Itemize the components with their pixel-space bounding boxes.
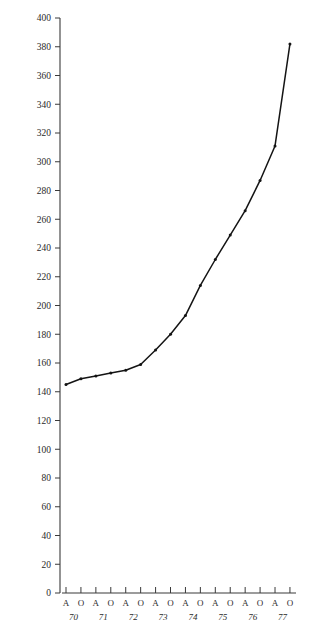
y-axis-tick-label: 80: [42, 473, 52, 483]
y-axis-tick-label: 280: [37, 186, 52, 196]
x-axis-tick-label: O: [108, 598, 115, 608]
x-axis-tick-label: A: [122, 598, 129, 608]
data-point: [274, 144, 277, 147]
y-axis-tick-label: 380: [37, 42, 52, 52]
y-axis-tick-label: 300: [37, 157, 52, 167]
x-axis-tick-label: A: [182, 598, 189, 608]
y-axis: 0204060801001201401601802002202402602803…: [37, 13, 60, 598]
data-point: [79, 377, 82, 380]
data-point: [109, 372, 112, 375]
data-series: [65, 42, 292, 386]
series-line: [66, 44, 290, 385]
data-point: [229, 234, 232, 237]
x-axis-tick-label: A: [63, 598, 70, 608]
x-axis-tick-label: A: [242, 598, 249, 608]
x-axis-year-label: 73: [159, 612, 169, 622]
x-axis-tick-label: A: [152, 598, 159, 608]
line-chart: 0204060801001201401601802002202402602803…: [0, 0, 324, 640]
x-axis-tick-label: A: [272, 598, 279, 608]
y-axis-tick-label: 120: [37, 416, 52, 426]
chart-canvas: 0204060801001201401601802002202402602803…: [0, 0, 324, 640]
x-axis-tick-label: O: [78, 598, 85, 608]
y-axis-tick-label: 260: [37, 215, 52, 225]
y-axis-tick-label: 360: [37, 71, 52, 81]
y-axis-tick-label: 140: [37, 387, 52, 397]
y-axis-tick-label: 320: [37, 128, 52, 138]
y-axis-tick-label: 160: [37, 358, 52, 368]
x-axis-year-label: 70: [69, 612, 79, 622]
x-axis-year-label: 72: [129, 612, 139, 622]
x-axis-tick-label: A: [93, 598, 100, 608]
y-axis-tick-label: 0: [46, 588, 51, 598]
y-axis-tick-label: 180: [37, 330, 52, 340]
data-point: [124, 369, 127, 372]
data-point: [244, 209, 247, 212]
data-point: [288, 42, 291, 45]
data-point: [214, 258, 217, 261]
data-point: [94, 374, 97, 377]
y-axis-tick-label: 100: [37, 445, 52, 455]
y-axis-tick-label: 200: [37, 301, 52, 311]
x-axis-tick-label: O: [197, 598, 204, 608]
y-axis-tick-label: 40: [42, 531, 52, 541]
data-point: [169, 333, 172, 336]
x-axis-year-label: 75: [218, 612, 228, 622]
data-point: [259, 179, 262, 182]
x-axis-year-label: 71: [99, 612, 108, 622]
x-axis-tick-label: A: [212, 598, 219, 608]
data-point: [154, 349, 157, 352]
y-axis-tick-label: 340: [37, 100, 52, 110]
x-axis-tick-label: O: [257, 598, 264, 608]
data-point: [65, 383, 68, 386]
y-axis-tick-label: 60: [42, 502, 52, 512]
data-point: [199, 284, 202, 287]
x-axis: AOAOAOAOAOAOAOAO7071727374757677: [62, 587, 296, 622]
data-point: [139, 363, 142, 366]
x-axis-tick-label: O: [167, 598, 174, 608]
x-axis-year-label: 76: [248, 612, 258, 622]
x-axis-tick-label: O: [287, 598, 294, 608]
x-axis-year-label: 74: [188, 612, 198, 622]
y-axis-tick-label: 240: [37, 243, 52, 253]
x-axis-year-label: 77: [278, 612, 288, 622]
x-axis-tick-label: O: [137, 598, 144, 608]
data-point: [184, 314, 187, 317]
x-axis-tick-label: O: [227, 598, 234, 608]
y-axis-tick-label: 20: [42, 560, 52, 570]
y-axis-tick-label: 400: [37, 13, 52, 23]
y-axis-tick-label: 220: [37, 272, 52, 282]
